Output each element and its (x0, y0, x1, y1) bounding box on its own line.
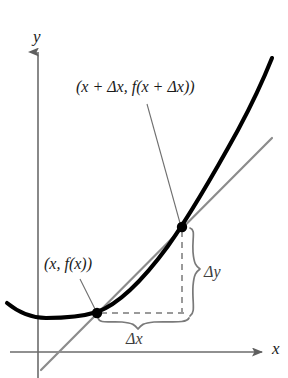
delta-x-brace (98, 318, 189, 329)
upper-point-label: (x + Δx, f(x + Δx)) (76, 79, 195, 95)
point-marker-lower (92, 308, 102, 318)
figure-canvas (0, 0, 288, 378)
upper-label-leader-line (147, 104, 180, 223)
secant-line (41, 138, 272, 370)
y-axis-label: y (33, 28, 41, 45)
x-axis-label: x (272, 340, 280, 357)
point-marker-upper (177, 222, 187, 232)
lower-label-leader-line (80, 279, 95, 309)
delta-y-label: Δy (204, 264, 221, 280)
delta-y-brace (190, 228, 200, 316)
delta-x-label: Δx (126, 331, 143, 347)
derivative-secant-figure: y x (x + Δx, f(x + Δx)) (x, f(x)) Δy Δx (0, 0, 288, 378)
lower-point-label: (x, f(x)) (44, 256, 92, 272)
function-curve (7, 58, 272, 318)
